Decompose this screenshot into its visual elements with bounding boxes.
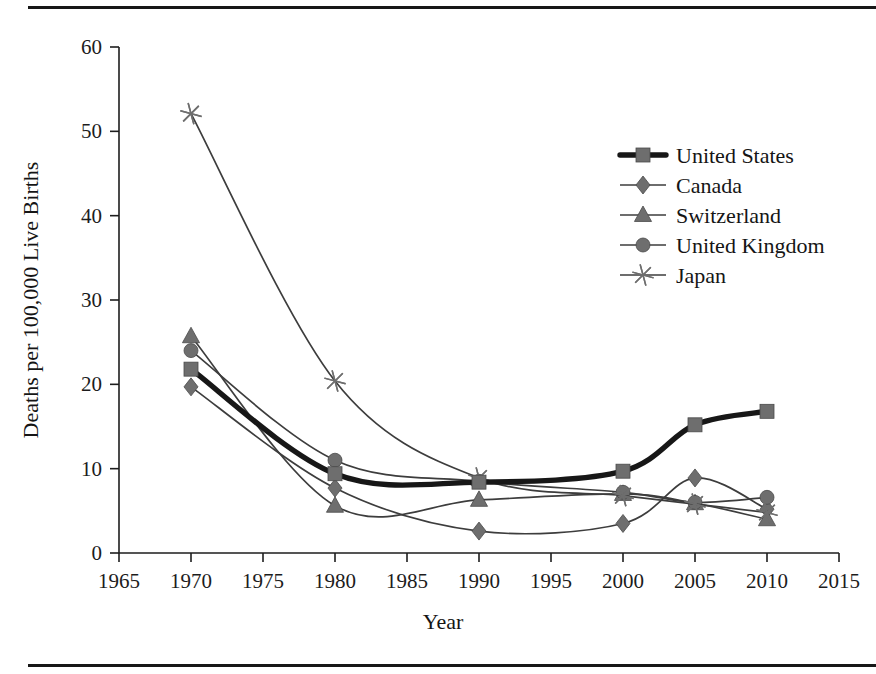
diamond-marker <box>636 176 650 194</box>
square-marker <box>636 148 650 162</box>
circle-marker <box>760 490 774 504</box>
square-marker <box>760 404 774 418</box>
series-united-states <box>184 362 774 489</box>
x-tick-label: 2000 <box>602 569 644 593</box>
axis-titles: Year Deaths per 100,000 Live Births <box>18 162 464 634</box>
legend-item-canada[interactable]: Canada <box>620 173 742 198</box>
triangle-marker <box>634 206 651 221</box>
chart-legend: United StatesCanadaSwitzerlandUnited Kin… <box>620 143 825 288</box>
y-tick-label: 20 <box>81 372 102 396</box>
line-chart: 0102030405060196519701975198019851990199… <box>0 0 876 674</box>
diamond-marker <box>688 469 702 487</box>
data-series <box>180 103 777 540</box>
x-tick-label: 1990 <box>458 569 500 593</box>
diamond-marker <box>472 522 486 540</box>
y-tick-label: 60 <box>81 35 102 59</box>
y-tick-label: 0 <box>92 541 103 565</box>
figure-container: 0102030405060196519701975198019851990199… <box>0 0 876 674</box>
legend-item-united-states[interactable]: United States <box>620 143 794 168</box>
x-tick-label: 1970 <box>170 569 212 593</box>
triangle-marker <box>182 327 199 342</box>
triangle-marker <box>326 497 343 512</box>
diamond-marker <box>184 378 198 396</box>
star-marker <box>324 370 345 391</box>
series-canada <box>184 378 774 540</box>
square-marker <box>328 467 342 481</box>
diamond-marker <box>328 479 342 497</box>
y-tick-label: 30 <box>81 288 102 312</box>
circle-marker <box>636 238 650 252</box>
y-tick-label: 50 <box>81 119 102 143</box>
y-tick-label: 10 <box>81 457 102 481</box>
x-tick-label: 1975 <box>242 569 284 593</box>
x-axis-title: Year <box>423 609 464 634</box>
legend-item-united-kingdom[interactable]: United Kingdom <box>620 233 825 258</box>
circle-marker <box>184 344 198 358</box>
x-tick-label: 1965 <box>98 569 140 593</box>
square-marker <box>616 464 630 478</box>
legend-item-japan[interactable]: Japan <box>620 263 726 288</box>
y-axis-title: Deaths per 100,000 Live Births <box>18 162 43 439</box>
x-tick-label: 1995 <box>530 569 572 593</box>
x-tick-label: 1985 <box>386 569 428 593</box>
x-tick-label: 2015 <box>818 569 860 593</box>
triangle-marker <box>470 491 487 506</box>
square-marker <box>688 418 702 432</box>
square-marker <box>184 362 198 376</box>
legend-label: United Kingdom <box>676 233 825 258</box>
legend-item-switzerland[interactable]: Switzerland <box>620 203 781 228</box>
legend-label: Canada <box>676 173 742 198</box>
x-tick-label: 2005 <box>674 569 716 593</box>
legend-label: Japan <box>676 263 726 288</box>
star-marker <box>180 103 201 124</box>
y-tick-label: 40 <box>81 204 102 228</box>
square-marker <box>472 475 486 489</box>
diamond-marker <box>616 514 630 532</box>
legend-label: United States <box>676 143 794 168</box>
x-tick-label: 2010 <box>746 569 788 593</box>
x-tick-label: 1980 <box>314 569 356 593</box>
circle-marker <box>328 453 342 467</box>
legend-label: Switzerland <box>676 203 781 228</box>
